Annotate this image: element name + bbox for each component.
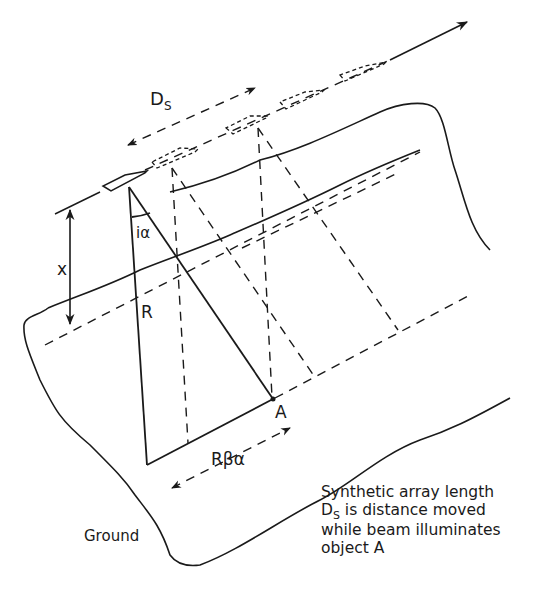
flight-direction-arrow [390,22,467,60]
caption-line-2: DS is distance moved [321,501,551,521]
label-x: x [57,259,67,279]
height-tick-top [55,192,100,214]
caption-line-4: object A [321,539,551,557]
ground-near-line [48,150,420,308]
aircraft-icon [103,171,147,191]
flight-path [145,60,390,170]
label-ground: Ground [84,527,139,545]
caption: Synthetic array length DS is distance mo… [321,483,551,557]
beam-2-vertical [258,128,272,397]
ground-base-line [147,399,273,465]
caption-line-1: Synthetic array length [321,483,551,501]
swath-line-2 [242,172,400,248]
swath-far-line [45,152,420,345]
caption-line-3: while beam illuminates [321,521,551,539]
ds-arrow [128,88,255,145]
label-i-alpha: iα [136,224,150,242]
ghost-aircraft-2 [226,116,268,134]
label-r-beta-alpha: Rβα [211,449,245,469]
ghost-aircraft-3 [280,90,324,109]
label-a: A [275,402,287,422]
label-r: R [141,302,153,322]
target-point-a [271,397,276,402]
beam-1-vertical [172,168,188,443]
swath-near-line [275,295,470,398]
beam-1-slant [172,168,314,376]
label-ds: DS [150,88,172,113]
ground-outline [170,103,490,250]
slant-range-line [129,187,273,399]
beam-2-slant [258,128,398,330]
ghost-aircraft-1 [152,148,198,168]
